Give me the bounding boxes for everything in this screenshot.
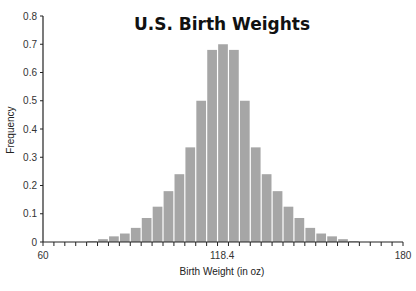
- y-axis-label: Frequency: [5, 106, 16, 153]
- histogram-bar: [131, 228, 141, 242]
- histogram-bar: [327, 236, 337, 242]
- y-tick-label: 0.7: [23, 39, 37, 50]
- y-tick-label: 0.1: [23, 208, 37, 219]
- histogram-bar: [284, 207, 294, 242]
- histogram-bar: [175, 174, 185, 242]
- x-tick-label: 118.4: [210, 250, 235, 261]
- y-tick-label: 0.2: [23, 180, 37, 191]
- y-tick-label: 0: [31, 237, 37, 248]
- histogram-bar: [207, 50, 217, 242]
- histogram-bar: [262, 174, 272, 242]
- chart-title: U.S. Birth Weights: [134, 14, 310, 34]
- histogram-bar: [229, 50, 239, 242]
- bars-group: [87, 44, 359, 242]
- y-tick-label: 0.3: [23, 152, 37, 163]
- histogram-bar: [273, 191, 283, 242]
- histogram-bar: [218, 44, 228, 242]
- y-tick-label: 0.5: [23, 95, 37, 106]
- histogram-bar: [153, 207, 163, 242]
- histogram-bar: [185, 147, 195, 242]
- y-tick-label: 0.8: [23, 11, 37, 22]
- histogram-bar: [240, 101, 250, 242]
- histogram-bar: [251, 147, 261, 242]
- y-tick-label: 0.6: [23, 67, 37, 78]
- histogram-bar: [295, 218, 305, 242]
- histogram-bar: [305, 228, 315, 242]
- x-tick-label: 180: [395, 250, 412, 261]
- x-tick-label: 60: [37, 250, 49, 261]
- histogram-bar: [120, 234, 130, 242]
- histogram-bar: [316, 234, 326, 242]
- x-axis: 60118.4180: [37, 242, 411, 261]
- y-tick-label: 0.4: [23, 124, 37, 135]
- histogram-chart: U.S. Birth Weights 00.10.20.30.40.50.60.…: [0, 0, 416, 291]
- y-axis: 00.10.20.30.40.50.60.70.8: [23, 11, 43, 248]
- x-axis-label: Birth Weight (in oz): [180, 266, 265, 277]
- histogram-bar: [109, 236, 119, 242]
- histogram-bar: [142, 218, 152, 242]
- histogram-bar: [164, 191, 174, 242]
- histogram-bar: [196, 101, 206, 242]
